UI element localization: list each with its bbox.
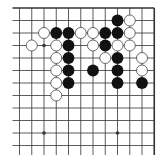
black-stone[interactable]	[112, 27, 124, 39]
white-stone[interactable]	[124, 28, 135, 39]
white-stone[interactable]	[124, 15, 135, 26]
white-stone[interactable]	[137, 65, 148, 76]
white-stone[interactable]	[51, 40, 62, 51]
go-board[interactable]	[0, 0, 164, 159]
white-stone[interactable]	[88, 28, 99, 39]
white-stone[interactable]	[100, 53, 111, 64]
black-stone[interactable]	[50, 27, 62, 39]
black-stone[interactable]	[112, 65, 124, 77]
black-stone[interactable]	[87, 65, 99, 77]
white-stone[interactable]	[112, 40, 123, 51]
star-point-icon	[42, 44, 46, 48]
go-board-canvas[interactable]	[0, 0, 164, 159]
black-stone[interactable]	[63, 65, 75, 77]
white-stone[interactable]	[124, 40, 135, 51]
white-stone[interactable]	[26, 40, 37, 51]
white-stone[interactable]	[51, 90, 62, 101]
black-stone[interactable]	[63, 52, 75, 64]
white-stone[interactable]	[137, 53, 148, 64]
white-stone[interactable]	[51, 53, 62, 64]
black-stone[interactable]	[63, 40, 75, 52]
star-point-icon	[42, 131, 46, 135]
black-stone[interactable]	[112, 77, 124, 89]
black-stone[interactable]	[112, 15, 124, 27]
star-point-icon	[116, 131, 120, 135]
white-stone[interactable]	[88, 40, 99, 51]
white-stone[interactable]	[39, 28, 50, 39]
black-stone[interactable]	[63, 27, 75, 39]
black-stone[interactable]	[99, 40, 111, 52]
white-stone[interactable]	[51, 78, 62, 89]
black-stone[interactable]	[136, 77, 148, 89]
black-stone[interactable]	[112, 52, 124, 64]
white-stone[interactable]	[51, 65, 62, 76]
black-stone[interactable]	[63, 77, 75, 89]
white-stone[interactable]	[75, 28, 86, 39]
black-stone[interactable]	[99, 27, 111, 39]
